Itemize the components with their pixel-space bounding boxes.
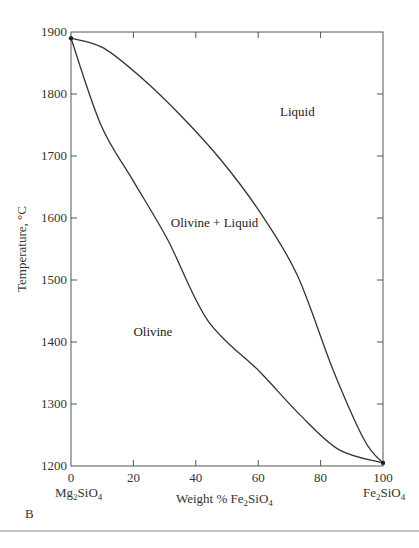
phase-boundaries <box>71 38 383 463</box>
panel-label: B <box>25 506 34 521</box>
solidus-curve <box>71 38 383 463</box>
x-tick-label: 0 <box>68 470 75 485</box>
region-label-olivine-liquid: Olivine + Liquid <box>171 215 259 230</box>
axis-ticks <box>71 32 383 466</box>
x-end-label-fe2sio4: Fe2SiO4 <box>363 485 406 502</box>
y-tick-label: 1800 <box>41 86 67 101</box>
y-tick-label: 1600 <box>41 210 67 225</box>
x-tick-label: 100 <box>373 470 393 485</box>
x-axis-title: Weight % Fe2SiO4 <box>176 491 273 508</box>
region-labels: LiquidOlivine + LiquidOlivine <box>133 104 315 339</box>
plot-frame <box>71 32 383 466</box>
liquidus-curve <box>71 38 383 463</box>
y-tick-label: 1400 <box>41 334 67 349</box>
region-label-liquid: Liquid <box>280 104 315 119</box>
axis-tick-labels: 0204060801001200130014001500160017001800… <box>41 24 393 485</box>
x-tick-label: 40 <box>189 470 202 485</box>
y-tick-label: 1700 <box>41 148 67 163</box>
x-tick-label: 80 <box>314 470 327 485</box>
y-tick-label: 1900 <box>41 24 67 39</box>
melting-point-marker-fe2sio4 <box>381 461 385 465</box>
y-tick-label: 1300 <box>41 396 67 411</box>
y-tick-label: 1500 <box>41 272 67 287</box>
phase-diagram: 0204060801001200130014001500160017001800… <box>0 0 419 548</box>
x-tick-label: 20 <box>127 470 140 485</box>
y-axis-title: Temperature, °C <box>14 206 29 292</box>
x-tick-label: 60 <box>252 470 265 485</box>
melting-point-marker-mg2sio4 <box>69 36 73 40</box>
region-label-olivine: Olivine <box>133 324 172 339</box>
y-tick-label: 1200 <box>41 458 67 473</box>
x-end-label-mg2sio4: Mg2SiO4 <box>55 485 103 502</box>
